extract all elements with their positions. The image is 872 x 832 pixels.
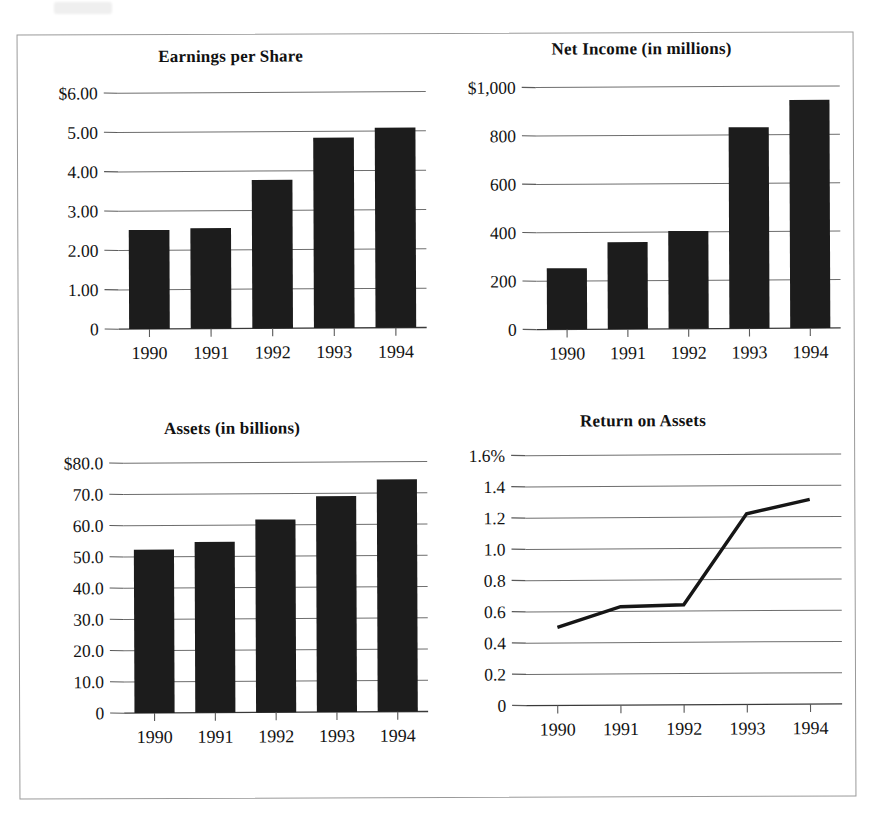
chart-svg-return-on-assets: 1.6%1.41.21.00.80.60.40.2019901991199219… [437, 432, 850, 786]
y-tick-label: 70.0 [73, 485, 104, 505]
gridline [118, 91, 426, 93]
scan-artifact [54, 2, 112, 14]
x-tick-label: 1993 [729, 718, 765, 738]
y-tick-label: 400 [490, 223, 517, 243]
plot-area-assets: $80.070.060.050.040.030.020.010.00199019… [27, 440, 438, 790]
x-tick-label: 1991 [603, 719, 639, 739]
chart-title-net-income: Net Income (in millions) [436, 34, 848, 60]
y-tick-label: 2.00 [68, 241, 99, 261]
y-tick-label: 0 [90, 319, 99, 339]
chart-panel-net-income: Net Income (in millions) $1,000800600400… [436, 34, 849, 412]
x-tick-label: 1994 [378, 342, 414, 362]
y-tick-label: 1.2 [483, 508, 505, 528]
x-tick-label: 1990 [137, 727, 173, 747]
x-tick-label: 1992 [258, 726, 294, 746]
bar-1991 [195, 542, 236, 713]
y-tick-label: 1.6% [469, 446, 506, 466]
y-tick-label: 0.2 [484, 664, 506, 684]
y-tick-label: 1.00 [68, 280, 99, 300]
y-tick-label: 0 [497, 696, 506, 716]
x-tick-label: 1994 [793, 718, 829, 738]
x-tick-label: 1994 [792, 342, 828, 362]
gridline [525, 516, 841, 518]
x-tick-label: 1992 [255, 342, 291, 362]
bar-1993 [729, 127, 770, 328]
y-tick-label: 40.0 [73, 578, 104, 598]
chart-svg-earnings-per-share: $6.005.004.003.002.001.00019901991199219… [26, 66, 437, 408]
x-tick-label: 1993 [316, 342, 352, 362]
x-tick-label: 1994 [380, 726, 416, 746]
gridline [526, 610, 842, 612]
x-tick-label: 1992 [671, 343, 707, 363]
y-tick-label: 600 [490, 174, 517, 194]
y-tick-label: 30.0 [73, 610, 104, 630]
y-tick-label: 1.4 [483, 477, 505, 497]
bar-1993 [316, 496, 357, 712]
plot-area-net-income: $1,000800600400200019901991199219931994 [436, 60, 849, 406]
bar-1990 [547, 268, 587, 329]
y-tick-label: $1,000 [468, 78, 516, 98]
gridline [123, 461, 427, 463]
gridline [526, 641, 842, 643]
x-tick-label: 1991 [197, 727, 233, 747]
y-tick-label: 0.4 [484, 633, 506, 653]
bar-1991 [607, 242, 647, 329]
y-tick-label: 0 [95, 703, 104, 723]
y-tick-label: 20.0 [73, 641, 104, 661]
chart-panel-return-on-assets: Return on Assets 1.6%1.41.21.00.80.60.40… [437, 406, 850, 792]
y-tick-label: 3.00 [68, 201, 99, 221]
y-tick-label: 60.0 [73, 516, 104, 536]
gridline [526, 579, 842, 581]
y-tick-label: 0.8 [484, 571, 506, 591]
gridline [525, 454, 841, 456]
gridline [536, 86, 840, 88]
y-tick-label: 10.0 [73, 672, 104, 692]
y-tick-label: 0 [508, 320, 517, 340]
x-tick-label: 1993 [319, 726, 355, 746]
x-tick-label: 1990 [540, 719, 576, 739]
plot-area-return-on-assets: 1.6%1.41.21.00.80.60.40.2019901991199219… [437, 432, 850, 786]
chart-panel-earnings-per-share: Earnings per Share $6.005.004.003.002.00… [26, 40, 437, 414]
chart-title-earnings-per-share: Earnings per Share [26, 40, 436, 68]
y-tick-label: 800 [490, 126, 517, 146]
bar-1994 [377, 479, 418, 711]
gridline [526, 673, 842, 675]
chart-svg-assets: $80.070.060.050.040.030.020.010.00199019… [27, 440, 438, 790]
bar-1994 [375, 127, 416, 327]
bar-1993 [313, 138, 354, 329]
gridline [526, 548, 842, 550]
bar-1992 [668, 231, 709, 329]
y-tick-label: $6.00 [58, 83, 98, 103]
chart-title-assets: Assets (in billions) [27, 412, 437, 440]
plot-area-earnings-per-share: $6.005.004.003.002.001.00019901991199219… [26, 66, 437, 408]
y-tick-label: 1.0 [484, 539, 506, 559]
bar-1994 [789, 100, 830, 328]
y-tick-label: 4.00 [67, 162, 98, 182]
figure-frame: Earnings per Share $6.005.004.003.002.00… [17, 31, 857, 799]
chart-panel-assets: Assets (in billions) $80.070.060.050.040… [27, 412, 438, 794]
bar-1990 [129, 230, 170, 329]
chart-svg-net-income: $1,000800600400200019901991199219931994 [436, 60, 849, 406]
bar-1992 [252, 180, 293, 329]
y-tick-label: 200 [490, 271, 517, 291]
bar-1991 [190, 228, 231, 329]
x-tick-label: 1990 [549, 343, 585, 363]
x-tick-label: 1993 [732, 342, 768, 362]
line-series-return-on-assets [557, 499, 810, 627]
y-tick-label: 5.00 [67, 123, 98, 143]
x-tick-label: 1992 [666, 719, 702, 739]
gridline [525, 485, 841, 487]
chart-title-return-on-assets: Return on Assets [437, 406, 849, 432]
y-tick-label: $80.0 [64, 453, 104, 473]
x-tick-label: 1990 [132, 343, 168, 363]
x-tick-label: 1991 [193, 343, 229, 363]
bar-1990 [134, 550, 175, 714]
x-tick-label: 1991 [610, 343, 646, 363]
bar-1992 [255, 519, 296, 712]
y-tick-label: 50.0 [73, 547, 104, 567]
y-tick-label: 0.6 [484, 602, 506, 622]
